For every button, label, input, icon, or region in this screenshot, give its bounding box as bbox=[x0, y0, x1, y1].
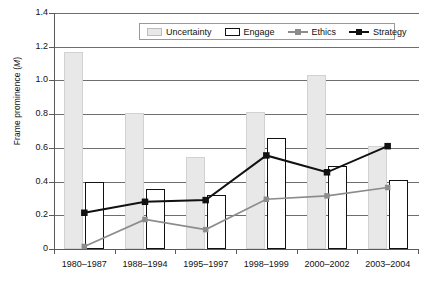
y-tick-label: 1.4 bbox=[18, 8, 48, 17]
y-axis-line bbox=[54, 13, 55, 250]
y-tick-label: 0.2 bbox=[18, 210, 48, 219]
legend-label: Ethics bbox=[312, 27, 337, 37]
y-tick-mark bbox=[49, 114, 54, 115]
x-tick-mark bbox=[297, 250, 298, 254]
legend-swatch-uncertainty bbox=[147, 28, 162, 36]
legend-swatch-strategy bbox=[349, 28, 369, 36]
x-tick-mark bbox=[236, 250, 237, 254]
gridline bbox=[54, 148, 419, 149]
legend-item-strategy[interactable]: Strategy bbox=[349, 27, 407, 37]
legend-item-ethics[interactable]: Ethics bbox=[288, 27, 337, 37]
chart-legend: UncertaintyEngageEthicsStrategy bbox=[139, 23, 395, 40]
bar-engage bbox=[389, 180, 408, 249]
x-tick-mark bbox=[115, 250, 116, 254]
y-tick-mark bbox=[49, 80, 54, 81]
x-tick-label: 2003–2004 bbox=[348, 260, 428, 269]
bar-engage bbox=[328, 166, 347, 249]
x-tick-mark bbox=[357, 250, 358, 254]
y-tick-label: 0.8 bbox=[18, 109, 48, 118]
bar-uncertainty bbox=[368, 146, 387, 249]
gridline bbox=[54, 182, 419, 183]
bar-uncertainty bbox=[307, 75, 326, 249]
x-tick-mark bbox=[418, 250, 419, 254]
y-axis-title-text: Frame prominence (M) bbox=[12, 57, 22, 145]
bar-uncertainty bbox=[125, 113, 144, 249]
bar-engage bbox=[146, 189, 165, 249]
gridline bbox=[54, 114, 419, 115]
legend-swatch-engage bbox=[225, 28, 240, 36]
gridline bbox=[54, 47, 419, 48]
y-tick-mark bbox=[49, 182, 54, 183]
legend-item-engage[interactable]: Engage bbox=[225, 27, 275, 37]
legend-label: Engage bbox=[244, 27, 275, 37]
bar-uncertainty bbox=[186, 157, 205, 249]
x-tick-mark bbox=[54, 250, 55, 254]
y-tick-mark bbox=[49, 47, 54, 48]
legend-item-uncertainty[interactable]: Uncertainty bbox=[147, 27, 212, 37]
gridline bbox=[54, 13, 419, 14]
x-tick-mark bbox=[175, 250, 176, 254]
legend-label: Strategy bbox=[373, 27, 407, 37]
chart-container: Frame prominence (M) 00.20.40.60.81.01.2… bbox=[0, 0, 438, 281]
y-tick-label: 1.0 bbox=[18, 75, 48, 84]
y-tick-label: 0 bbox=[18, 244, 48, 253]
legend-swatch-ethics bbox=[288, 28, 308, 36]
gridline bbox=[54, 80, 419, 81]
y-tick-label: 1.2 bbox=[18, 42, 48, 51]
bar-engage bbox=[267, 138, 286, 249]
y-tick-mark bbox=[49, 215, 54, 216]
legend-label: Uncertainty bbox=[166, 27, 212, 37]
y-tick-label: 0.4 bbox=[18, 177, 48, 186]
y-tick-label: 0.6 bbox=[18, 143, 48, 152]
bar-engage bbox=[207, 195, 226, 249]
bar-uncertainty bbox=[246, 112, 265, 249]
bar-uncertainty bbox=[64, 52, 83, 249]
bar-engage bbox=[85, 182, 104, 249]
y-tick-mark bbox=[49, 148, 54, 149]
y-tick-mark bbox=[49, 13, 54, 14]
gridline bbox=[54, 215, 419, 216]
